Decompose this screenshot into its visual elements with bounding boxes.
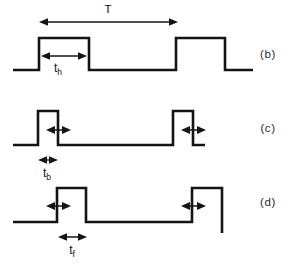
fall-time-label: tf [69, 243, 75, 259]
fall-marker-left-head-right [62, 126, 71, 134]
base-time-label-sub: b [46, 172, 51, 182]
rise-marker-right-head-left [181, 202, 190, 210]
fall-marker-left-head-left [46, 126, 55, 134]
panel-c: tb (c) [13, 111, 276, 182]
high-time-label: th [54, 61, 62, 77]
panel-label-d: (d) [260, 196, 276, 208]
fall-marker-right-head-right [197, 126, 206, 134]
fall-time-label-sub: f [72, 249, 75, 259]
period-arrow-head-left [39, 18, 48, 25]
figure-container: T th (b) [0, 0, 307, 264]
base-time-arrow-head-right [49, 156, 58, 163]
panel-label-b: (b) [260, 48, 276, 60]
high-time-label-sub: h [57, 67, 62, 77]
fall-time-arrow-group: tf [58, 233, 87, 259]
waveform-d-trace [13, 188, 222, 233]
period-arrow-group: T [39, 3, 178, 26]
high-time-arrow-head-right [78, 52, 87, 59]
rise-marker-left-head-right [62, 202, 71, 210]
fall-time-arrow-head-left [58, 233, 67, 240]
high-time-arrow-group: th [41, 52, 87, 77]
rise-marker-right-head-right [197, 202, 206, 210]
fall-time-arrow-head-right [78, 233, 87, 240]
period-label: T [104, 3, 111, 15]
panel-d: tf (d) [13, 188, 276, 259]
high-time-arrow-head-left [41, 52, 50, 59]
base-time-label: tb [43, 166, 51, 182]
rise-marker-right-group [181, 202, 206, 210]
waveform-diagram: T th (b) [0, 0, 307, 264]
waveform-c-trace [13, 111, 205, 145]
panel-b: T th (b) [13, 3, 276, 77]
base-time-arrow-group: tb [38, 156, 58, 182]
fall-marker-right-head-left [181, 126, 190, 134]
base-time-arrow-head-left [38, 156, 47, 163]
rise-marker-left-group [46, 202, 71, 210]
rise-marker-left-head-left [46, 202, 55, 210]
period-arrow-head-right [169, 18, 178, 25]
panel-label-c: (c) [260, 122, 275, 134]
